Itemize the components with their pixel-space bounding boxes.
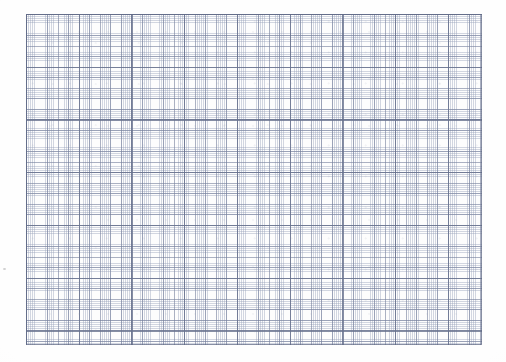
graph-paper-scan [0, 0, 506, 362]
grid-block [26, 14, 482, 345]
scan-speck-mark [3, 268, 6, 270]
major-gridlines [26, 14, 482, 345]
